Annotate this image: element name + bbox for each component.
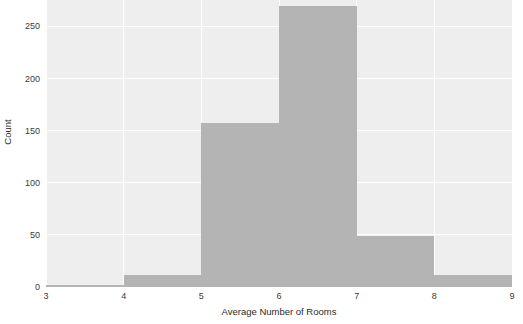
gridline-vertical [512,0,513,287]
histogram-bar [124,275,202,288]
y-tick-label: 250 [25,21,40,31]
x-tick-label: 5 [189,291,213,301]
histogram-figure: Histogram of Average Number of Rooms 050… [0,0,523,324]
x-tick-label: 4 [112,291,136,301]
y-tick-label: 200 [25,74,40,84]
histogram-bar [279,6,357,287]
histogram-bar [46,285,124,287]
x-tick-label: 7 [345,291,369,301]
x-tick-label: 9 [500,291,523,301]
y-axis-label: Count [2,110,14,154]
x-axis-label: Average Number of Rooms [46,306,512,318]
y-tick-label: 50 [30,230,40,240]
histogram-bar [434,275,512,288]
plot-panel [46,0,512,287]
x-tick-label: 8 [422,291,446,301]
x-tick-label: 3 [34,291,58,301]
y-tick-label: 100 [25,178,40,188]
y-tick-label: 150 [25,126,40,136]
gridline-vertical [46,0,47,287]
histogram-bar [201,123,279,287]
histogram-bar [357,236,435,287]
x-tick-label: 6 [267,291,291,301]
gridline-vertical [123,0,124,287]
